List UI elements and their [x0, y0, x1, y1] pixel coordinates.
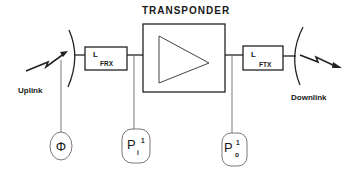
uplink-arrow-icon	[26, 51, 68, 71]
transponder-diagram: TRANSPONDER Uplink L FRX L FTX Downlink …	[0, 0, 358, 181]
transponder-box	[143, 24, 225, 92]
pout-superscript: 1	[236, 139, 240, 146]
tx-filter-label: L	[251, 50, 256, 59]
diagram-title: TRANSPONDER	[142, 5, 230, 16]
tx-filter-subscript: FTX	[259, 61, 272, 68]
rx-filter-subscript: FRX	[100, 60, 114, 67]
receive-antenna-icon	[68, 30, 75, 87]
downlink-arrow-icon	[300, 55, 342, 68]
pin-symbol: P	[127, 137, 136, 152]
phi-symbol: Φ	[56, 139, 66, 154]
uplink-label: Uplink	[18, 86, 43, 95]
pout-subscript: o	[235, 151, 239, 158]
rx-filter-label: L	[93, 50, 98, 59]
amplifier-triangle-icon	[159, 36, 209, 83]
pout-symbol: P	[224, 140, 233, 155]
pin-subscript: i	[137, 149, 139, 156]
downlink-label: Downlink	[291, 93, 327, 102]
pin-superscript: 1	[141, 137, 145, 144]
